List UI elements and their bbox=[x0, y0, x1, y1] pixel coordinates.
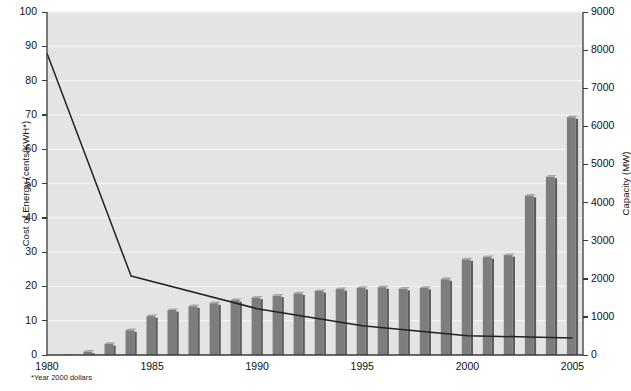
bar-body bbox=[441, 279, 450, 355]
bar-body bbox=[231, 300, 240, 355]
bar bbox=[357, 286, 368, 355]
bar-side-shade bbox=[450, 281, 452, 355]
bar-body bbox=[546, 177, 555, 355]
bar bbox=[315, 289, 326, 355]
bar bbox=[546, 175, 557, 355]
bar-body bbox=[105, 344, 114, 355]
bar bbox=[462, 258, 473, 355]
bar-side-shade bbox=[492, 259, 494, 355]
bar-body bbox=[147, 316, 156, 355]
bar bbox=[252, 296, 263, 355]
bar bbox=[504, 254, 515, 356]
bar bbox=[378, 286, 389, 355]
bar-side-shade bbox=[387, 289, 389, 355]
bar-side-shade bbox=[324, 293, 326, 355]
bar bbox=[483, 256, 494, 356]
bar bbox=[525, 194, 536, 355]
bar-body bbox=[378, 287, 387, 355]
bar-side-shade bbox=[555, 178, 557, 355]
bar-body bbox=[168, 310, 177, 355]
bar-side-shade bbox=[366, 290, 368, 356]
bar-side-shade bbox=[239, 302, 241, 355]
bar bbox=[567, 116, 578, 355]
bar-side-shade bbox=[281, 297, 283, 355]
bar bbox=[210, 302, 221, 355]
bar-side-shade bbox=[218, 305, 220, 355]
bar-side-shade bbox=[471, 261, 473, 355]
bar-body bbox=[315, 291, 324, 355]
bar-body bbox=[399, 289, 408, 355]
bar bbox=[126, 329, 137, 355]
bar bbox=[273, 294, 284, 355]
bar-side-shade bbox=[534, 197, 536, 355]
bar-body bbox=[210, 303, 219, 355]
bar-side-shade bbox=[429, 290, 431, 356]
bar bbox=[231, 299, 242, 356]
bar-side-shade bbox=[408, 290, 410, 355]
bar bbox=[168, 308, 179, 355]
bar bbox=[189, 305, 200, 355]
bar-body bbox=[126, 330, 135, 355]
bar-body bbox=[357, 288, 366, 355]
bar-body bbox=[294, 293, 303, 355]
bar-side-shade bbox=[260, 299, 262, 355]
bar-body bbox=[483, 257, 492, 355]
bar-side-shade bbox=[197, 308, 199, 355]
bar bbox=[147, 315, 158, 356]
bar-body bbox=[420, 288, 429, 355]
bar-side-shade bbox=[134, 332, 136, 355]
bar bbox=[294, 292, 305, 355]
bar-body bbox=[252, 298, 261, 356]
bar bbox=[441, 278, 452, 355]
bar-side-shade bbox=[113, 346, 115, 356]
bar-body bbox=[567, 117, 576, 355]
bar-body bbox=[273, 296, 282, 356]
bar-side-shade bbox=[155, 318, 157, 355]
bar-side-shade bbox=[576, 119, 578, 355]
bar-side-shade bbox=[513, 257, 515, 355]
bar bbox=[420, 286, 431, 355]
bar-body bbox=[189, 306, 198, 355]
bar-side-shade bbox=[302, 295, 304, 355]
bar-body bbox=[462, 259, 471, 355]
bar-body bbox=[504, 255, 513, 355]
bar-body bbox=[525, 196, 534, 355]
bar-side-shade bbox=[176, 312, 178, 355]
bar bbox=[399, 287, 410, 355]
